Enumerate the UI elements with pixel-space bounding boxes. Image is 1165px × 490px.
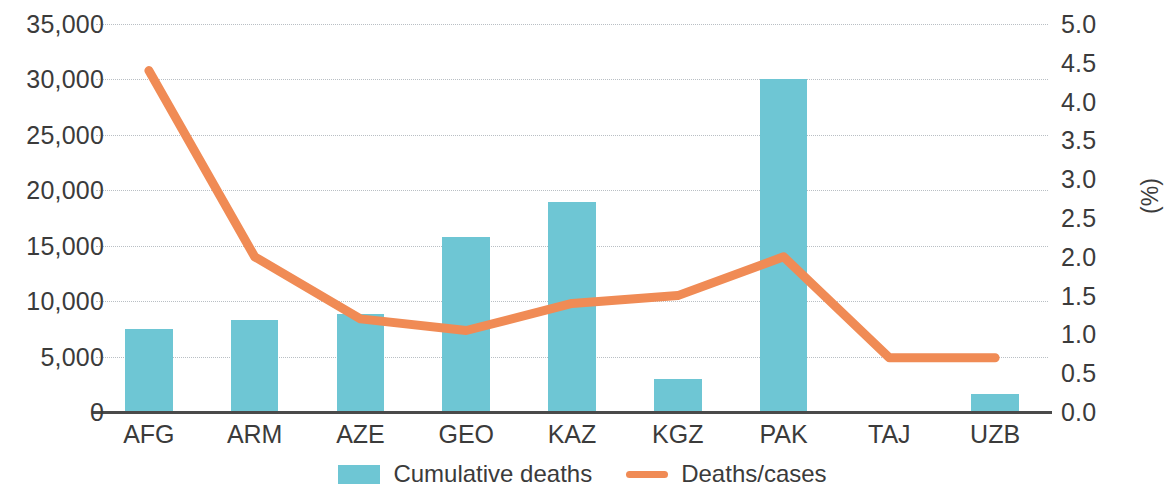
plot-area bbox=[96, 24, 1048, 412]
line-series bbox=[96, 24, 1048, 412]
y-axis-right-tick-label: 4.0 bbox=[1061, 87, 1141, 116]
x-axis-line bbox=[92, 411, 1052, 414]
y-axis-left-tick-label: 10,000 bbox=[20, 287, 104, 316]
x-axis-label-afg: AFG bbox=[123, 420, 174, 449]
y-axis-left-tick-label: 30,000 bbox=[20, 65, 104, 94]
x-axis-label-uzb: UZB bbox=[970, 420, 1020, 449]
legend-label-deaths-cases: Deaths/cases bbox=[681, 460, 826, 488]
legend-bar-swatch-icon bbox=[338, 465, 380, 484]
y-axis-right-tick-label: 3.0 bbox=[1061, 165, 1141, 194]
y-axis-right-tick-label: 4.5 bbox=[1061, 48, 1141, 77]
y-axis-right-tick-label: 2.0 bbox=[1061, 242, 1141, 271]
x-axis-label-pak: PAK bbox=[759, 420, 807, 449]
y-axis-left-tick-label: 15,000 bbox=[20, 231, 104, 260]
legend-item-deaths-cases: Deaths/cases bbox=[626, 460, 826, 488]
x-axis-label-kaz: KAZ bbox=[548, 420, 597, 449]
legend-line-swatch-icon bbox=[626, 471, 668, 478]
y-axis-left-tick-label: 0 bbox=[20, 398, 104, 427]
y-axis-right-title: (%) bbox=[1137, 178, 1164, 214]
y-axis-left-tick-label: 25,000 bbox=[20, 120, 104, 149]
legend-item-cumulative-deaths: Cumulative deaths bbox=[338, 460, 592, 488]
y-axis-right-tick-label: 0.0 bbox=[1061, 398, 1141, 427]
y-axis-right-tick-label: 5.0 bbox=[1061, 10, 1141, 39]
y-axis-right-tick-label: 3.5 bbox=[1061, 126, 1141, 155]
x-axis-label-kgz: KGZ bbox=[652, 420, 703, 449]
y-axis-right-tick-label: 1.0 bbox=[1061, 320, 1141, 349]
x-axis-tick-labels: AFGARMAZEGEOKAZKGZPAKTAJUZB bbox=[96, 420, 1048, 460]
y-axis-right-tick-label: 1.5 bbox=[1061, 281, 1141, 310]
y-axis-right-tick-label: 0.5 bbox=[1061, 359, 1141, 388]
chart-container: 05,00010,00015,00020,00025,00030,00035,0… bbox=[0, 0, 1165, 490]
y-axis-left-tick-label: 5,000 bbox=[20, 342, 104, 371]
legend-label-cumulative-deaths: Cumulative deaths bbox=[393, 460, 592, 488]
y-axis-left-tick-label: 20,000 bbox=[20, 176, 104, 205]
chart-legend: Cumulative deaths Deaths/cases bbox=[0, 460, 1165, 488]
x-axis-label-geo: GEO bbox=[438, 420, 494, 449]
y-axis-right-tick-label: 2.5 bbox=[1061, 204, 1141, 233]
y-axis-left-tick-label: 35,000 bbox=[20, 10, 104, 39]
x-axis-label-taj: TAJ bbox=[868, 420, 911, 449]
x-axis-label-aze: AZE bbox=[336, 420, 385, 449]
x-axis-label-arm: ARM bbox=[227, 420, 283, 449]
